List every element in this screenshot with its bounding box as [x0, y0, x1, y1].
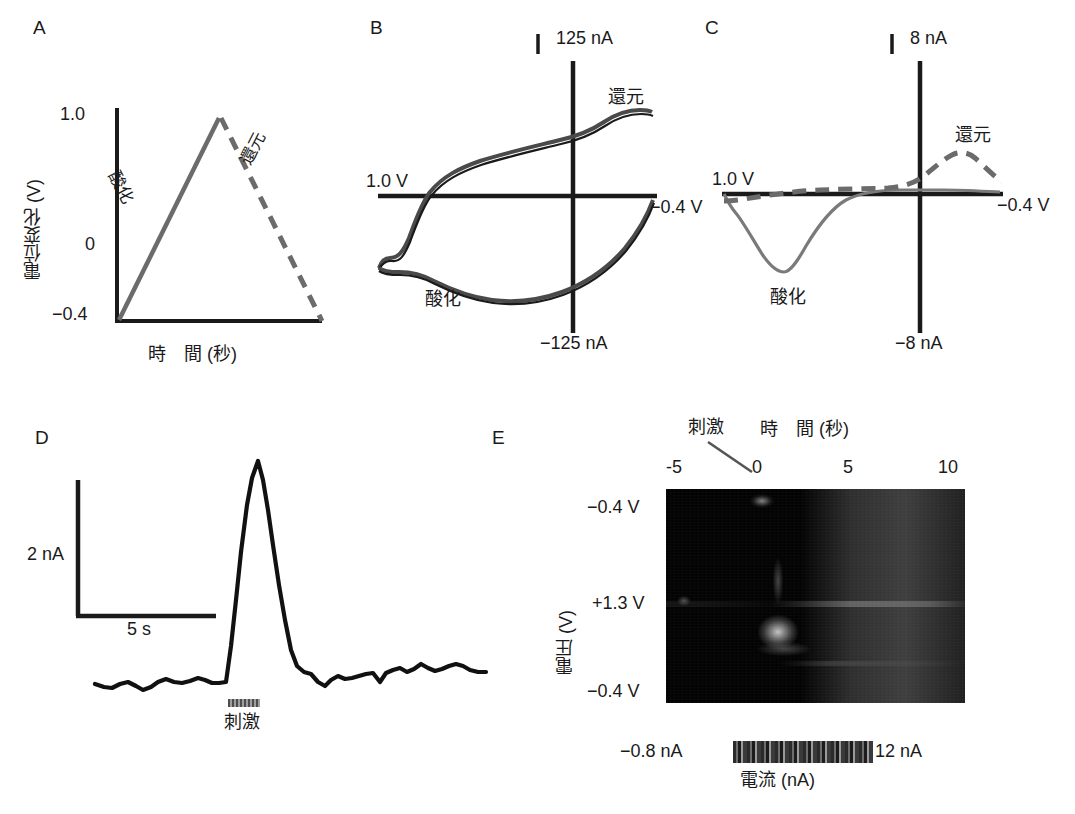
- panel-e-xtick-4: 10: [938, 458, 958, 477]
- panel-e-colorbar-min-label: −0.8 nA: [620, 742, 683, 761]
- panel-e-color-plot: [666, 489, 965, 703]
- panel-e-y-axis-label: 電圧 (V): [557, 565, 576, 675]
- panel-e-xtick-3: 5: [843, 458, 853, 477]
- panel-e-colorbar-axis-label: 電流 (nA): [740, 771, 815, 790]
- panel-e-colorbar-max-label: 12 nA: [875, 742, 922, 761]
- panel-e-xtick-2: 0: [752, 458, 762, 477]
- panel-e-stimulation-leader-line: [708, 442, 752, 472]
- panel-e-ytick-2: +1.3 V: [592, 594, 645, 613]
- panel-e-xtick-1: -5: [666, 458, 682, 477]
- panel-e-ytick-1: −0.4 V: [587, 498, 640, 517]
- figure-canvas: A 1.0 0 −0.4 電位変化 (V) 時 間 (秒) 酸化 還元 B 12…: [0, 0, 1075, 814]
- panel-e-ytick-3: −0.4 V: [587, 682, 640, 701]
- panel-e-colorbar: [733, 741, 873, 763]
- panel-e-noise-texture: [666, 489, 965, 703]
